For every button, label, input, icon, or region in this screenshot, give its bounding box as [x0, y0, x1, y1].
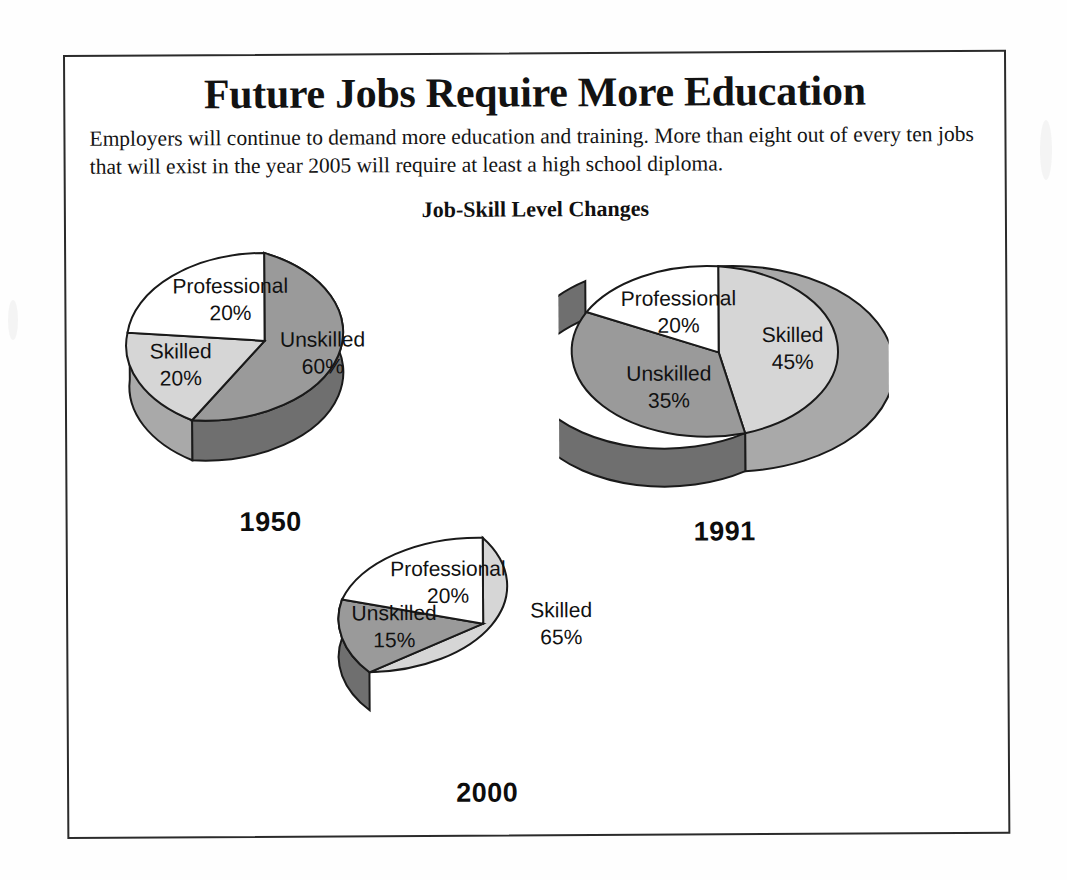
pie-chart-2000: Skilled 65% Unskilled 15% Professional 2…: [311, 519, 663, 810]
infographic-panel: Future Jobs Require More Education Emplo…: [63, 50, 1010, 839]
slice-label-unskilled-1950: Unskilled: [280, 327, 365, 350]
slice-label-professional-1950: Professional: [172, 274, 288, 298]
slice-value-skilled-1950: 20%: [160, 366, 202, 389]
slice-value-professional-2000: 20%: [427, 584, 469, 607]
scanned-page: Future Jobs Require More Education Emplo…: [0, 0, 1067, 880]
page-title: Future Jobs Require More Education: [65, 66, 1004, 119]
slice-value-professional-1950: 20%: [209, 301, 251, 324]
pie-chart-1950-svg: Unskilled 60% Skilled 20% Professional 2…: [104, 230, 436, 512]
pie-chart-2000-svg: Skilled 65% Unskilled 15% Professional 2…: [311, 519, 662, 783]
intro-paragraph: Employers will continue to demand more e…: [89, 120, 980, 182]
slice-label-unskilled-2000: Unskilled: [351, 601, 436, 624]
scan-artifact: [1040, 120, 1052, 180]
slice-label-skilled-2000: Skilled: [530, 598, 592, 621]
slice-label-professional-1991: Professional: [621, 286, 737, 310]
pie-chart-1950: Unskilled 60% Skilled 20% Professional 2…: [104, 230, 436, 539]
slice-label-skilled-1991: Skilled: [762, 323, 824, 346]
slice-label-skilled-1950: Skilled: [150, 339, 212, 362]
slice-value-unskilled-2000: 15%: [373, 628, 415, 651]
pie-chart-1991: Skilled 45% Unskilled 35% Professional 2…: [558, 247, 890, 548]
slice-value-skilled-2000: 65%: [540, 625, 582, 648]
slice-label-unskilled-1991: Unskilled: [626, 361, 711, 384]
slice-value-unskilled-1991: 35%: [648, 389, 690, 412]
slice-value-professional-1991: 20%: [657, 313, 699, 336]
scan-artifact: [8, 300, 18, 340]
slice-value-unskilled-1950: 60%: [302, 354, 344, 377]
slice-value-skilled-1991: 45%: [772, 350, 814, 373]
pie-chart-1991-svg: Skilled 45% Unskilled 35% Professional 2…: [558, 247, 890, 521]
chart-group-subtitle: Job-Skill Level Changes: [66, 194, 1005, 225]
year-label-2000: 2000: [312, 777, 662, 810]
slice-label-professional-2000: Professional: [390, 557, 506, 581]
